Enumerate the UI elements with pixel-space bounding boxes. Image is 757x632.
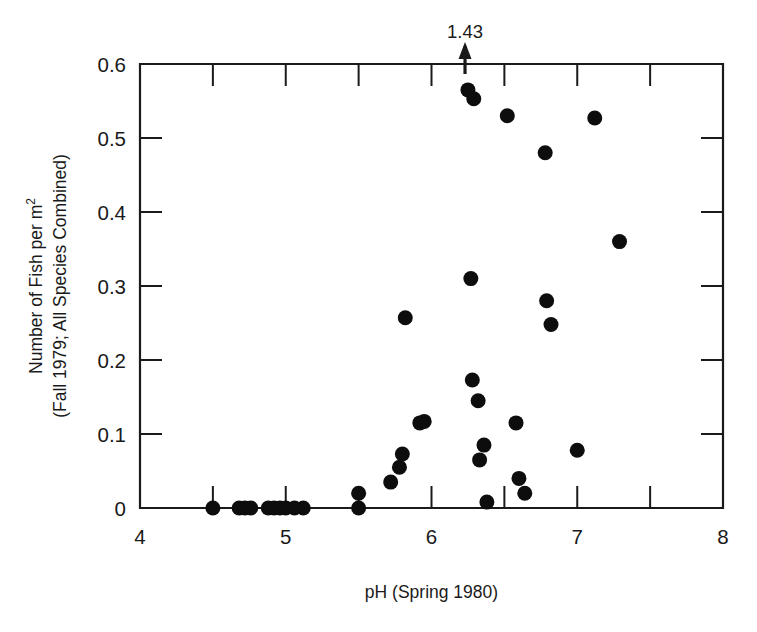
data-point	[296, 501, 311, 516]
data-point	[398, 310, 413, 325]
y-tick-label: 0.5	[98, 127, 127, 150]
data-point	[544, 317, 559, 332]
y-axis-title-line2: (Fall 1979; All Species Combined)	[50, 154, 70, 418]
data-point	[479, 495, 494, 510]
data-point	[517, 486, 532, 501]
y-tick-label: 0.6	[98, 53, 127, 76]
y-tick-label: 0.2	[98, 349, 127, 372]
data-points	[205, 82, 627, 515]
x-tick-label: 7	[572, 525, 583, 548]
x-tick-label: 4	[134, 525, 145, 548]
axis-tick-labels: 4567800.10.20.30.40.50.6	[98, 53, 729, 549]
y-tick-label: 0.3	[98, 275, 127, 298]
data-point	[538, 145, 553, 160]
data-point	[392, 460, 407, 475]
data-point	[351, 486, 366, 501]
data-point	[570, 443, 585, 458]
y-tick-label: 0	[115, 497, 126, 520]
data-point	[509, 415, 524, 430]
data-point	[351, 501, 366, 516]
annotations: 1.43	[447, 21, 483, 74]
scatter-plot: 4567800.10.20.30.40.50.6 1.43 pH (Spring…	[0, 0, 757, 632]
x-tick-label: 5	[280, 525, 291, 548]
x-tick-label: 6	[426, 525, 437, 548]
data-point	[471, 393, 486, 408]
y-axis-title-line1: Number of Fish per m2	[24, 198, 46, 374]
chart-page: 4567800.10.20.30.40.50.6 1.43 pH (Spring…	[0, 0, 757, 632]
data-point	[539, 293, 554, 308]
y-tick-label: 0.4	[98, 201, 127, 224]
offscale-value-label: 1.43	[447, 21, 483, 42]
data-point	[395, 446, 410, 461]
data-point	[587, 111, 602, 126]
data-point	[476, 438, 491, 453]
data-point	[500, 108, 515, 123]
data-point	[383, 475, 398, 490]
data-point	[472, 452, 487, 467]
data-point	[612, 234, 627, 249]
data-point	[465, 372, 480, 387]
data-point	[466, 91, 481, 106]
offscale-arrow-head	[459, 42, 472, 59]
data-point	[463, 271, 478, 286]
plot-frame	[140, 64, 723, 508]
data-point	[417, 414, 432, 429]
plot-box	[140, 64, 723, 508]
x-axis-title: pH (Spring 1980)	[365, 582, 498, 602]
data-point	[511, 471, 526, 486]
x-tick-label: 8	[717, 525, 728, 548]
axis-ticks	[140, 64, 723, 508]
y-tick-label: 0.1	[98, 423, 127, 446]
data-point	[243, 501, 258, 516]
data-point	[205, 501, 220, 516]
